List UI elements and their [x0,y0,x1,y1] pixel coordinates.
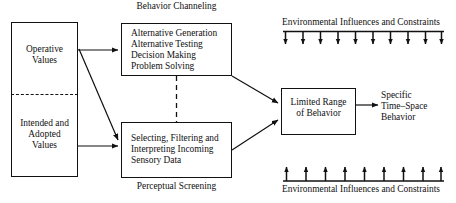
values-box-divider [11,94,78,95]
environmental-influences-bottom-label: Environmental Influences and Constraints [266,184,456,195]
diagram-canvas: Operative Values Intended and Adopted Va… [0,0,456,203]
specific-time-space-behavior-label: Specific Time–Space Behavior [381,90,455,123]
operative-values-label: Operative Values [11,44,78,66]
connector-behavior-channeling-to-limited-range [232,76,278,103]
environment-bottom-arrow-bar [283,167,444,181]
connector-operative-to-perceptual-screening [79,49,118,140]
perceptual-screening-caption: Perceptual Screening [121,181,232,192]
behavior-channeling-caption: Behavior Channeling [121,1,232,12]
behavior-channeling-text: Alternative Generation Alternative Testi… [131,28,235,72]
connector-perceptual-screening-to-limited-range [232,120,278,150]
limited-range-of-behavior-label: Limited Range of Behavior [281,97,356,119]
perceptual-screening-text: Selecting, Filtering and Interpreting In… [131,133,235,166]
environment-top-arrow-bar [283,31,444,44]
environmental-influences-top-label: Environmental Influences and Constraints [266,17,456,28]
intended-adopted-values-label: Intended and Adopted Values [11,118,78,151]
